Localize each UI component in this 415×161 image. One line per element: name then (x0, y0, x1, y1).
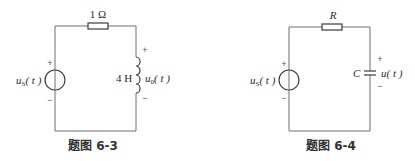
figure-6-4: R + − uS( t ) C + − u( t ) 题图 6-4 (250, 9, 403, 153)
inductor-label: 4 H (116, 72, 132, 84)
voltage-minus: − (142, 93, 147, 103)
resistor-label: 1 Ω (90, 8, 106, 20)
source-plus: + (47, 58, 52, 68)
inductor-icon (136, 57, 140, 93)
wire-left-top (55, 26, 88, 70)
wire-right-top (108, 26, 136, 57)
source-minus: − (47, 95, 52, 105)
circuit-diagrams: 1 Ω + − uS( t ) 4 H + − u0( t ) 题图 6-3 R… (0, 0, 415, 161)
source-label: uS( t ) (16, 74, 42, 88)
voltage-minus: − (377, 81, 382, 91)
source-argument: ( t ) (259, 74, 275, 87)
source-minus: − (281, 93, 286, 103)
wire-bottom (55, 90, 136, 131)
voltage-label: u0( t ) (145, 72, 170, 86)
figure-6-3: 1 Ω + − uS( t ) 4 H + − u0( t ) 题图 6-3 (16, 8, 170, 153)
figure-caption: 题图 6-4 (306, 139, 356, 153)
source-argument: ( t ) (25, 74, 41, 87)
voltage-plus: + (142, 45, 147, 55)
resistor-icon (88, 23, 108, 29)
capacitor-label: C (353, 67, 361, 79)
wire-right-top (342, 27, 370, 71)
voltage-plus: + (377, 54, 382, 64)
resistor-label: R (329, 9, 337, 21)
wire-bottom (289, 75, 370, 131)
source-label: uS( t ) (250, 74, 276, 88)
voltage-label: u( t ) (381, 67, 403, 80)
voltage-argument: ( t ) (154, 72, 170, 85)
voltage-argument: ( t ) (387, 67, 403, 80)
figure-caption: 题图 6-3 (68, 139, 118, 153)
wire-left-top (289, 27, 322, 70)
resistor-icon (322, 24, 342, 30)
source-plus: + (281, 59, 286, 69)
